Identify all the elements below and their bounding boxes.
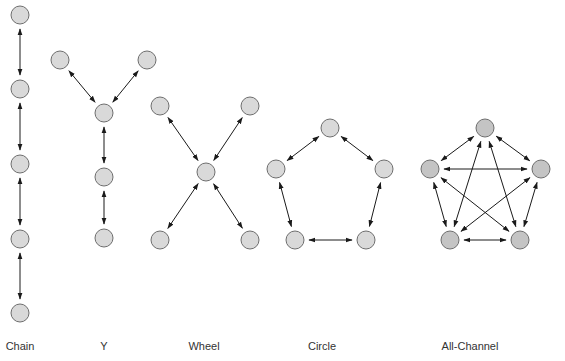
- bidirectional-arrow: [341, 136, 373, 160]
- bidirectional-arrow: [69, 71, 95, 102]
- bidirectional-arrow: [524, 182, 537, 226]
- bidirectional-arrow: [287, 136, 319, 160]
- label-y: Y: [100, 340, 107, 352]
- network-node: [11, 155, 29, 173]
- network-node: [441, 231, 459, 249]
- network-circle: [280, 136, 381, 240]
- bidirectional-arrow: [489, 141, 516, 226]
- network-node: [357, 231, 375, 249]
- network-node: [95, 168, 113, 186]
- label-chain: Chain: [6, 340, 35, 352]
- bidirectional-arrow: [441, 178, 509, 232]
- network-all-channel: [434, 136, 537, 240]
- network-node: [286, 231, 304, 249]
- bidirectional-arrow: [496, 136, 529, 160]
- network-node: [11, 230, 29, 248]
- network-node: [11, 6, 29, 24]
- bidirectional-arrow: [168, 184, 198, 229]
- network-node: [476, 119, 494, 137]
- network-node: [375, 160, 393, 178]
- network-node: [11, 80, 29, 98]
- bidirectional-arrow: [214, 118, 242, 161]
- network-node: [51, 51, 69, 69]
- label-wheel: Wheel: [188, 340, 219, 352]
- network-node: [138, 51, 156, 69]
- network-node: [95, 229, 113, 247]
- network-node: [241, 231, 259, 249]
- label-circle: Circle: [308, 340, 336, 352]
- bidirectional-arrow: [214, 184, 243, 228]
- communication-networks-diagram: [0, 0, 565, 361]
- bidirectional-arrow: [280, 183, 292, 227]
- network-node: [95, 104, 113, 122]
- network-node: [321, 119, 339, 137]
- label-all-channel: All-Channel: [442, 340, 499, 352]
- bidirectional-arrow: [369, 183, 380, 227]
- network-node: [421, 160, 439, 178]
- network-node: [267, 160, 285, 178]
- bidirectional-arrow: [434, 182, 446, 226]
- bidirectional-arrow: [168, 117, 198, 160]
- network-node: [197, 163, 215, 181]
- network-node: [151, 97, 169, 115]
- network-y: [69, 71, 138, 224]
- bidirectional-arrow: [113, 71, 138, 102]
- bidirectional-arrow: [441, 136, 474, 160]
- network-node: [11, 304, 29, 322]
- network-node: [151, 231, 169, 249]
- nodes-layer: [11, 6, 550, 322]
- bidirectional-arrow: [461, 178, 530, 232]
- bidirectional-arrow: [454, 141, 481, 226]
- network-node: [511, 231, 529, 249]
- network-node: [241, 97, 259, 115]
- network-node: [532, 160, 550, 178]
